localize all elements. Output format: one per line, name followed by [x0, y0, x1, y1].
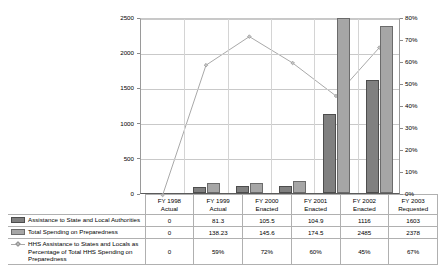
plot-area [140, 18, 400, 194]
table-column-header: FY 1999Actual [194, 195, 243, 215]
bar-total-spending [293, 181, 306, 193]
y-axis-right-tickmark [400, 106, 403, 107]
bar-total-spending [337, 18, 350, 193]
table-row: Total Spending on Preparedness0138.23145… [9, 227, 438, 239]
y-axis-right-tickmark [400, 194, 403, 195]
column-header-line: Actual [148, 205, 192, 213]
table-cell-value: 45% [340, 239, 389, 265]
column-header-line: FY 2003 [391, 197, 435, 205]
y-axis-right-tick-label: 50% [405, 81, 435, 87]
category-separator [271, 19, 272, 193]
table-cell-value: 81.3 [194, 215, 243, 227]
column-header-line: Actual [196, 205, 240, 213]
y-axis-left-tickmark [137, 123, 140, 124]
table-cell-value: 105.5 [243, 215, 292, 227]
column-header-line: Enacted [343, 205, 387, 213]
table-cell-value: 72% [243, 239, 292, 265]
chart-figure: FY 1998ActualFY 1999ActualFY 2000Enacted… [0, 0, 446, 274]
bar-total-spending [380, 26, 393, 193]
table-cell-value: 2485 [340, 227, 389, 239]
legend-cell: Assistance to State and Local Authoritie… [9, 215, 146, 227]
legend-line-marker-icon [11, 241, 25, 248]
y-axis-left-tick-label: 0 [100, 191, 134, 197]
table-cell-value: 2378 [389, 227, 438, 239]
table-header-row: FY 1998ActualFY 1999ActualFY 2000Enacted… [9, 195, 438, 215]
y-axis-left-tickmark [137, 53, 140, 54]
table-cell-value: 0 [145, 239, 194, 265]
legend-label: Assistance to State and Local Authoritie… [28, 216, 143, 224]
table-column-header: FY 2000Enacted [243, 195, 292, 215]
y-axis-right-tick-label: 20% [405, 147, 435, 153]
category-separator [358, 19, 359, 193]
table-cell-value: 59% [194, 239, 243, 265]
table-cell-value: 1116 [340, 215, 389, 227]
y-axis-right-tick-label: 0% [405, 191, 435, 197]
y-axis-left-tick-label: 2500 [100, 15, 134, 21]
gridline [141, 19, 399, 20]
y-axis-right-tick-label: 60% [405, 59, 435, 65]
y-axis-left-tick-label: 2000 [100, 50, 134, 56]
column-header-line: Enacted [294, 205, 338, 213]
table-cell-value: 138.23 [194, 227, 243, 239]
bar-total-spending [207, 183, 220, 193]
bar-assistance [236, 186, 249, 193]
y-axis-left-tickmark [137, 18, 140, 19]
data-table-wrap: FY 1998ActualFY 1999ActualFY 2000Enacted… [8, 194, 438, 265]
bar-assistance [279, 186, 292, 193]
gridline [141, 54, 399, 55]
table-cell-value: 174.5 [291, 227, 340, 239]
table-column-header: FY 2001Enacted [291, 195, 340, 215]
data-table: FY 1998ActualFY 1999ActualFY 2000Enacted… [8, 194, 438, 265]
y-axis-right-tick-label: 40% [405, 103, 435, 109]
y-axis-left-tick-label: 1000 [100, 121, 134, 127]
gridline [141, 89, 399, 90]
y-axis-right-tickmark [400, 62, 403, 63]
y-axis-right-tick-label: 10% [405, 169, 435, 175]
legend-cell: Total Spending on Preparedness [9, 227, 146, 239]
legend-label: HHS Assistance to States and Locals as P… [28, 240, 143, 263]
table-column-header: FY 2002Enacted [340, 195, 389, 215]
y-axis-right-tick-label: 30% [405, 125, 435, 131]
gridline [141, 124, 399, 125]
category-separator [184, 19, 185, 193]
table-cell-value: 145.6 [243, 227, 292, 239]
bar-assistance [193, 187, 206, 193]
column-header-line: Enacted [245, 205, 289, 213]
table-cell-value: 60% [291, 239, 340, 265]
y-axis-left-tickmark [137, 158, 140, 159]
legend-swatch-icon [11, 229, 25, 235]
y-axis-right-tickmark [400, 128, 403, 129]
y-axis-left-tickmark [137, 88, 140, 89]
y-axis-left-tick-label: 500 [100, 156, 134, 162]
y-axis-right-tick-label: 70% [405, 37, 435, 43]
column-header-line: Requested [391, 205, 435, 213]
y-axis-left-tickmark [137, 194, 140, 195]
table-cell-value: 67% [389, 239, 438, 265]
column-header-line: FY 2001 [294, 197, 338, 205]
table-cell-value: 0 [145, 227, 194, 239]
y-axis-right-tick-label: 80% [405, 15, 435, 21]
table-column-header: FY 1998Actual [145, 195, 194, 215]
y-axis-right-tickmark [400, 150, 403, 151]
category-separator [314, 19, 315, 193]
bar-assistance [323, 114, 336, 193]
column-header-line: FY 2000 [245, 197, 289, 205]
table-row: HHS Assistance to States and Locals as P… [9, 239, 438, 265]
bar-total-spending [250, 183, 263, 193]
column-header-line: FY 1998 [148, 197, 192, 205]
table-corner-cell [9, 195, 146, 215]
legend-cell: HHS Assistance to States and Locals as P… [9, 239, 146, 265]
table-cell-value: 0 [145, 215, 194, 227]
category-separator [228, 19, 229, 193]
gridline [141, 159, 399, 160]
y-axis-right-tickmark [400, 18, 403, 19]
bar-assistance [366, 80, 379, 193]
table-row: Assistance to State and Local Authoritie… [9, 215, 438, 227]
column-header-line: FY 1999 [196, 197, 240, 205]
y-axis-right-tickmark [400, 84, 403, 85]
table-column-header: FY 2003Requested [389, 195, 438, 215]
y-axis-right-tickmark [400, 40, 403, 41]
y-axis-right-tickmark [400, 172, 403, 173]
legend-swatch-icon [11, 217, 25, 223]
y-axis-left-tick-label: 1500 [100, 85, 134, 91]
